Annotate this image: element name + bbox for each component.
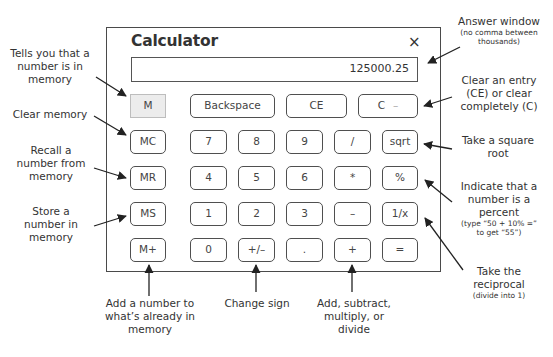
arrow-percent: [425, 180, 452, 202]
arrow-square-root: [424, 144, 452, 149]
arrow-clear-memory: [94, 116, 126, 135]
arrow-clear-entry: [424, 97, 452, 106]
arrow-recall-memory: [94, 168, 126, 178]
arrow-memory-indicator: [96, 77, 126, 96]
arrow-answer-window: [428, 47, 460, 63]
arrow-store-memory: [94, 216, 126, 226]
callout-arrows: [0, 0, 553, 357]
arrow-reciprocal: [425, 218, 463, 270]
